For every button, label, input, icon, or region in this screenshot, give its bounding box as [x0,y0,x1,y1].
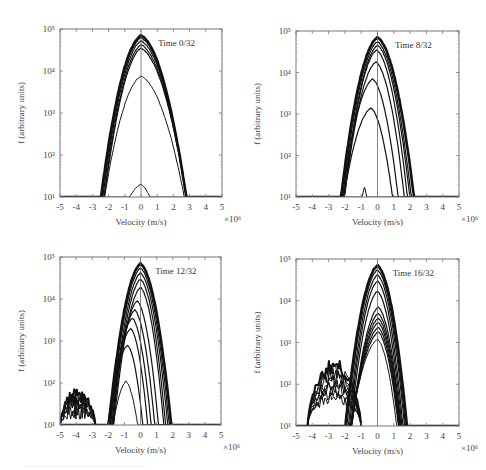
x-tick-label: -5 [292,431,300,441]
y-tick-label: 10⁴ [43,294,55,304]
x-tick-label: 4 [203,430,208,440]
x-tick-label: 5 [220,202,225,212]
x-tick-label: 3 [187,202,192,212]
x-tick-label: -2 [341,431,349,441]
figure-canvas: -5-4-3-2-101234510¹10²10³10⁴10⁵Velocity … [0,0,486,470]
panel-title: Time 0/32 [158,38,195,48]
x-tick-label: 1 [392,431,397,441]
y-axis-title: f (arbitrary units) [16,310,26,372]
x-tick-label: 0 [375,431,380,441]
y-tick-label: 10² [279,379,291,389]
x-tick-label: -3 [325,202,333,212]
x-tick-label: 2 [170,430,175,440]
x-tick-label: -3 [325,431,333,441]
y-tick-label: 10² [43,150,55,160]
panel-title: Time 16/32 [393,268,434,278]
y-tick-label: 10⁴ [43,66,55,76]
x-axis-title: Velocity (m/s) [352,446,403,456]
x-tick-label: 2 [408,431,413,441]
y-tick-label: 10² [279,151,291,161]
x-tick-label: 0 [138,430,143,440]
x-tick-label: -5 [292,202,300,212]
y-tick-label: 10³ [279,109,291,119]
x-axis-multiplier: ×10⁶ [224,214,241,224]
x-tick-label: 5 [457,202,462,212]
x-tick-label: -4 [309,431,317,441]
x-tick-label: 5 [457,431,462,441]
x-axis-multiplier: ×10⁶ [223,442,240,452]
y-tick-label: 10¹ [279,192,291,202]
x-tick-label: 4 [440,431,445,441]
panel-title: Time 12/32 [155,266,196,276]
y-tick-label: 10⁵ [279,26,291,36]
x-tick-label: -1 [357,202,365,212]
y-tick-label: 10¹ [279,421,291,431]
x-tick-label: 3 [424,202,429,212]
x-tick-label: 0 [139,202,144,212]
plot-panel-4: -5-4-3-2-101234510¹10²10³10⁴10⁵Velocity … [252,254,478,456]
x-tick-label: -5 [56,430,64,440]
x-tick-label: -1 [357,431,365,441]
x-axis-title: Velocity (m/s) [115,217,166,227]
y-tick-label: 10³ [43,336,55,346]
x-axis-title: Velocity (m/s) [115,445,166,455]
plot-panel-3: -5-4-3-2-101234510¹10²10³10⁴10⁵Velocity … [16,252,240,455]
x-tick-label: -5 [56,202,64,212]
y-tick-label: 10² [43,378,55,388]
x-tick-label: -4 [309,202,317,212]
x-axis-multiplier: ×10⁶ [461,443,478,453]
x-tick-label: 2 [408,202,413,212]
x-tick-label: -2 [341,202,349,212]
x-tick-label: -2 [105,202,113,212]
x-tick-label: 4 [440,202,445,212]
x-axis-multiplier: ×10⁶ [461,214,478,224]
x-tick-label: -3 [88,430,96,440]
x-tick-label: 2 [171,202,176,212]
footer-divider [25,466,145,467]
y-tick-label: 10⁴ [279,296,291,306]
x-tick-label: -4 [72,202,80,212]
plot-panel-1: -5-4-3-2-101234510¹10²10³10⁴10⁵Velocity … [16,24,241,227]
x-tick-label: 4 [204,202,209,212]
x-tick-label: 3 [424,431,429,441]
y-tick-label: 10⁴ [279,68,291,78]
y-axis-title: f (arbitrary units) [252,312,262,374]
y-tick-label: 10⁵ [43,252,55,262]
panel-title: Time 8/32 [395,40,432,50]
x-tick-label: -4 [72,430,80,440]
y-tick-label: 10³ [279,338,291,348]
y-tick-label: 10¹ [43,192,55,202]
y-tick-label: 10³ [43,108,55,118]
y-axis-title: f (arbitrary units) [16,82,26,144]
x-tick-label: 1 [155,202,160,212]
y-tick-label: 10¹ [43,420,55,430]
x-tick-label: 5 [219,430,224,440]
x-tick-label: 1 [392,202,397,212]
x-tick-label: -2 [105,430,113,440]
x-axis-title: Velocity (m/s) [352,217,403,227]
x-tick-label: -1 [121,430,129,440]
plot-panel-2: -5-4-3-2-101234510¹10²10³10⁴10⁵Velocity … [252,26,478,227]
x-tick-label: 0 [375,202,380,212]
x-tick-label: -3 [89,202,97,212]
y-tick-label: 10⁵ [279,254,291,264]
x-tick-label: -1 [121,202,129,212]
x-tick-label: 1 [154,430,159,440]
x-tick-label: 3 [187,430,192,440]
y-axis-title: f (arbitrary units) [252,83,262,145]
y-tick-label: 10⁵ [43,24,55,34]
